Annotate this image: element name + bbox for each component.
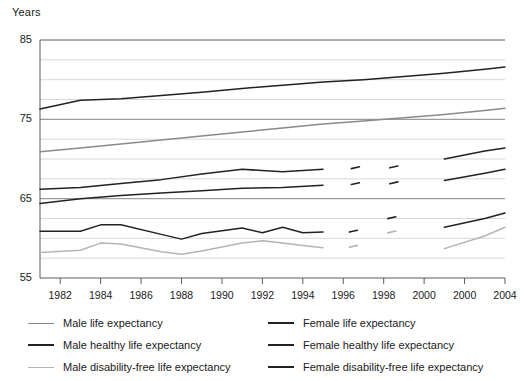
series-line-female_healthy-segment2 bbox=[444, 148, 505, 159]
x-tick-label: 2000 bbox=[412, 290, 435, 301]
y-tick-label: 55 bbox=[0, 272, 32, 283]
x-tick-label: 1998 bbox=[372, 290, 395, 301]
gap-fragment-male_healthy bbox=[351, 183, 359, 185]
y-tick-label: 85 bbox=[0, 34, 32, 45]
legend-line-swatch bbox=[28, 344, 54, 346]
legend-item-label: Male healthy life expectancy bbox=[63, 339, 201, 351]
legend-item-label: Male disability-free life expectancy bbox=[63, 361, 231, 373]
gap-fragment-male_healthy bbox=[390, 182, 398, 184]
series-line-female_life bbox=[40, 67, 505, 109]
x-tick-label: 1982 bbox=[49, 290, 72, 301]
x-tick-label: 1990 bbox=[210, 290, 233, 301]
legend-item-label: Male life expectancy bbox=[63, 317, 163, 329]
legend-item[interactable]: Female life expectancy bbox=[268, 312, 483, 334]
x-tick-label: 1994 bbox=[291, 290, 314, 301]
chart-svg bbox=[0, 0, 524, 310]
x-tick-label: 1984 bbox=[89, 290, 112, 301]
gap-fragment-female_disability_free bbox=[349, 230, 357, 232]
x-tick-label: 1992 bbox=[251, 290, 274, 301]
series-line-female_disability_free bbox=[40, 225, 323, 239]
chart-plot-area: 55657585 1982198419861988199019921994199… bbox=[0, 0, 524, 310]
series-line-male_life bbox=[40, 108, 505, 152]
legend-item-label: Female life expectancy bbox=[303, 317, 416, 329]
x-tick-marks-group bbox=[60, 278, 505, 284]
gridlines-group bbox=[40, 60, 505, 258]
series-line-female_disability_free-segment2 bbox=[444, 213, 505, 227]
chart-legend: Male life expectancyMale healthy life ex… bbox=[0, 312, 524, 381]
legend-line-swatch bbox=[268, 322, 294, 324]
legend-line-swatch bbox=[28, 367, 54, 368]
legend-item[interactable]: Female healthy life expectancy bbox=[268, 334, 483, 356]
x-tick-label: 2000 bbox=[453, 290, 476, 301]
legend-column-male: Male life expectancyMale healthy life ex… bbox=[28, 312, 231, 378]
legend-line-swatch bbox=[268, 366, 294, 368]
legend-line-swatch bbox=[28, 323, 54, 324]
legend-item[interactable]: Female disability-free life expectancy bbox=[268, 356, 483, 378]
y-tick-label: 75 bbox=[0, 113, 32, 124]
x-tick-label: 1996 bbox=[332, 290, 355, 301]
data-series-group bbox=[40, 67, 505, 254]
series-line-male_disability_free bbox=[40, 241, 323, 254]
gap-fragments-group bbox=[349, 166, 397, 247]
legend-item[interactable]: Male disability-free life expectancy bbox=[28, 356, 231, 378]
gap-fragment-male_disability_free bbox=[388, 231, 396, 233]
y-tick-label: 65 bbox=[0, 193, 32, 204]
x-tick-label: 2004 bbox=[493, 290, 516, 301]
legend-item[interactable]: Male healthy life expectancy bbox=[28, 334, 231, 356]
x-tick-label: 1988 bbox=[170, 290, 193, 301]
gap-fragment-male_disability_free bbox=[349, 245, 357, 247]
legend-item[interactable]: Male life expectancy bbox=[28, 312, 231, 334]
legend-column-female: Female life expectancyFemale healthy lif… bbox=[268, 312, 483, 378]
gap-fragment-female_healthy bbox=[351, 167, 359, 169]
legend-item-label: Female healthy life expectancy bbox=[303, 339, 454, 351]
gap-fragment-female_healthy bbox=[390, 166, 398, 168]
legend-line-swatch bbox=[268, 344, 294, 346]
legend-item-label: Female disability-free life expectancy bbox=[303, 361, 483, 373]
x-tick-label: 1986 bbox=[129, 290, 152, 301]
